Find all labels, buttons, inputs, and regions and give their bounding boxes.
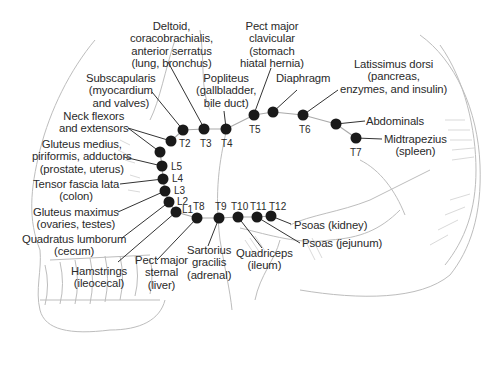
label-psoas-jejunum: Psoas (jejunum) <box>302 237 382 249</box>
label-line: (ovaries, testes) <box>33 218 119 230</box>
label-line: Sartorius <box>187 244 231 256</box>
label-line: piriformis, adductors <box>32 150 132 162</box>
label-line: Psoas (kidney) <box>294 219 367 231</box>
level-L4: L4 <box>172 174 183 184</box>
label-gluteus-maximus: Gluteus maximus (ovaries, testes) <box>33 206 119 231</box>
label-line: (cecum) <box>22 245 126 257</box>
label-abdominals: Abdominals <box>366 115 424 127</box>
label-latissimus-dorsi: Latissimus dorsi (pancreas, enzymes, and… <box>340 58 447 95</box>
label-line: (stomach <box>240 45 304 57</box>
label-line: and valves) <box>86 97 156 109</box>
label-quadriceps: Quadriceps (ileum) <box>236 247 293 272</box>
label-line: (adrenal) <box>187 269 231 281</box>
level-L1: L1 <box>182 205 193 215</box>
level-T4: T4 <box>221 139 233 149</box>
level-T9: T9 <box>215 202 227 212</box>
label-line: Pect major <box>240 20 304 32</box>
label-hamstrings: Hamstrings (ileocecal) <box>71 265 127 290</box>
label-line: coracobrachialis, <box>130 32 213 44</box>
label-line: Neck flexors <box>59 110 129 122</box>
label-line: anterior serratus <box>130 45 213 57</box>
label-line: (lung, bronchus) <box>130 57 213 69</box>
label-gluteus-medius: Gluteus medius, piriformis, adductors (p… <box>32 138 132 175</box>
skull-reflex-diagram: Deltoid, coracobrachialis, anterior serr… <box>0 0 490 365</box>
label-line: sternal <box>135 266 188 278</box>
label-line: Quadratus lumborum <box>22 233 126 245</box>
level-T6: T6 <box>299 125 311 135</box>
label-line: Gluteus maximus <box>33 206 119 218</box>
label-line: Latissimus dorsi <box>340 58 447 70</box>
label-line: (liver) <box>135 279 188 291</box>
label-quadratus-lumborum: Quadratus lumborum (cecum) <box>22 233 126 258</box>
label-line: gracilis <box>187 256 231 268</box>
label-line: and extensors <box>59 122 129 134</box>
label-line: Gluteus medius, <box>32 138 132 150</box>
label-line: Midtrapezius <box>384 133 447 145</box>
label-subscapularis: Subscapularis (myocardium and valves) <box>86 72 156 109</box>
label-line: Tensor fascia lata <box>33 178 119 190</box>
label-line: (myocardium <box>86 84 156 96</box>
label-line: (ileocecal) <box>71 277 127 289</box>
label-line: Abdominals <box>366 115 424 127</box>
label-diaphragm: Diaphragm <box>276 72 330 84</box>
label-popliteus: Popliteus (gallbladder, bile duct) <box>196 72 256 109</box>
label-deltoid: Deltoid, coracobrachialis, anterior serr… <box>130 20 213 70</box>
label-sartorius: Sartorius gracilis (adrenal) <box>187 244 231 281</box>
level-T3: T3 <box>200 139 212 149</box>
label-line: (pancreas, <box>340 70 447 82</box>
label-line: Hamstrings <box>71 265 127 277</box>
label-line: (gallbladder, <box>196 84 256 96</box>
label-line: Subscapularis <box>86 72 156 84</box>
label-line: (colon) <box>33 190 119 202</box>
label-line: (ileum) <box>236 259 293 271</box>
label-line: clavicular <box>240 32 304 44</box>
label-line: Pect major <box>135 254 188 266</box>
label-line: Popliteus <box>196 72 256 84</box>
label-line: Deltoid, <box>130 20 213 32</box>
level-T12: T12 <box>269 202 286 212</box>
label-line: (prostate, uterus) <box>32 163 132 175</box>
label-line: Quadriceps <box>236 247 293 259</box>
label-neck-flexors: Neck flexors and extensors <box>59 110 129 135</box>
label-line: (spleen) <box>384 145 447 157</box>
label-pect-major-clavicular: Pect major clavicular (stomach hiatal he… <box>240 20 304 70</box>
label-line: Diaphragm <box>276 72 330 84</box>
level-T10: T10 <box>231 202 248 212</box>
label-line: Psoas (jejunum) <box>302 237 382 249</box>
level-T5: T5 <box>249 125 261 135</box>
level-T8: T8 <box>193 202 205 212</box>
level-T2: T2 <box>179 139 191 149</box>
label-pect-major-sternal: Pect major sternal (liver) <box>135 254 188 291</box>
label-line: bile duct) <box>196 97 256 109</box>
label-tensor-fascia-lata: Tensor fascia lata (colon) <box>33 178 119 203</box>
label-line: hiatal hernia) <box>240 57 304 69</box>
label-psoas-kidney: Psoas (kidney) <box>294 219 367 231</box>
level-L3: L3 <box>174 186 185 196</box>
upper-curve <box>171 112 356 141</box>
label-midtrapezius: Midtrapezius (spleen) <box>384 133 447 158</box>
level-T7: T7 <box>350 148 362 158</box>
label-line: enzymes, and insulin) <box>340 83 447 95</box>
level-T11: T11 <box>250 202 267 212</box>
level-L5: L5 <box>171 162 182 172</box>
